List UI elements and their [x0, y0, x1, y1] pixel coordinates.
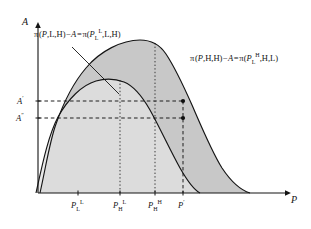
y-axis-label: A	[22, 17, 28, 27]
x-tick-label-P-H-L: PHL	[113, 199, 126, 212]
economics-figure: A P A′ A″ PLL PHL PHH P′ π (P,L,H) −A = …	[0, 0, 311, 229]
x-tick-label-P-L-L: PLL	[71, 199, 84, 212]
lower-curve-label: π (P,L,H) −A = π(PLL,L,H)	[34, 28, 121, 41]
x-axis-label: P	[291, 195, 297, 205]
marker-lower	[181, 116, 185, 120]
y-tick-label-A-double-prime: A″	[16, 112, 24, 122]
x-tick-label-P-H-H: PHH	[148, 199, 162, 212]
x-tick-label-P-prime: P′	[178, 199, 185, 209]
marker-upper	[181, 99, 185, 103]
upper-curve-label: π (P,H,H) −A = π(PLH,H,L)	[190, 52, 278, 65]
y-tick-label-A-prime: A′	[17, 95, 24, 105]
